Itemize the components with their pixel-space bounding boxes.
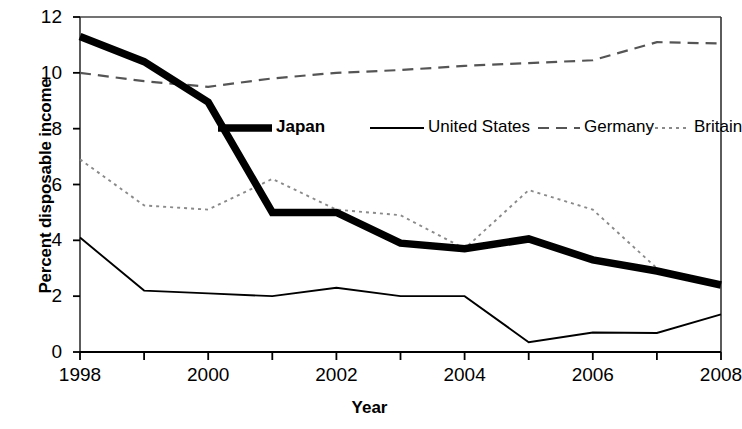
x-tick-label: 2008 (700, 364, 742, 386)
legend-label-japan: Japan (276, 117, 325, 137)
x-axis-title: Year (0, 398, 739, 418)
x-tick-label: 1998 (59, 364, 101, 386)
legend-label-united-states: United States (428, 117, 530, 137)
legend-label-germany: Germany (584, 117, 654, 137)
x-tick-label: 2000 (187, 364, 229, 386)
y-axis-title: Percent disposable income (36, 36, 56, 336)
x-tick-label: 2004 (443, 364, 485, 386)
x-tick-label: 2002 (315, 364, 357, 386)
x-tick-label: 2006 (572, 364, 614, 386)
legend-label-britain: Britain (694, 117, 742, 137)
